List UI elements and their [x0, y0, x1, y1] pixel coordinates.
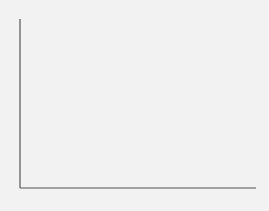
chart: [0, 0, 269, 211]
chart-svg: [0, 0, 269, 211]
